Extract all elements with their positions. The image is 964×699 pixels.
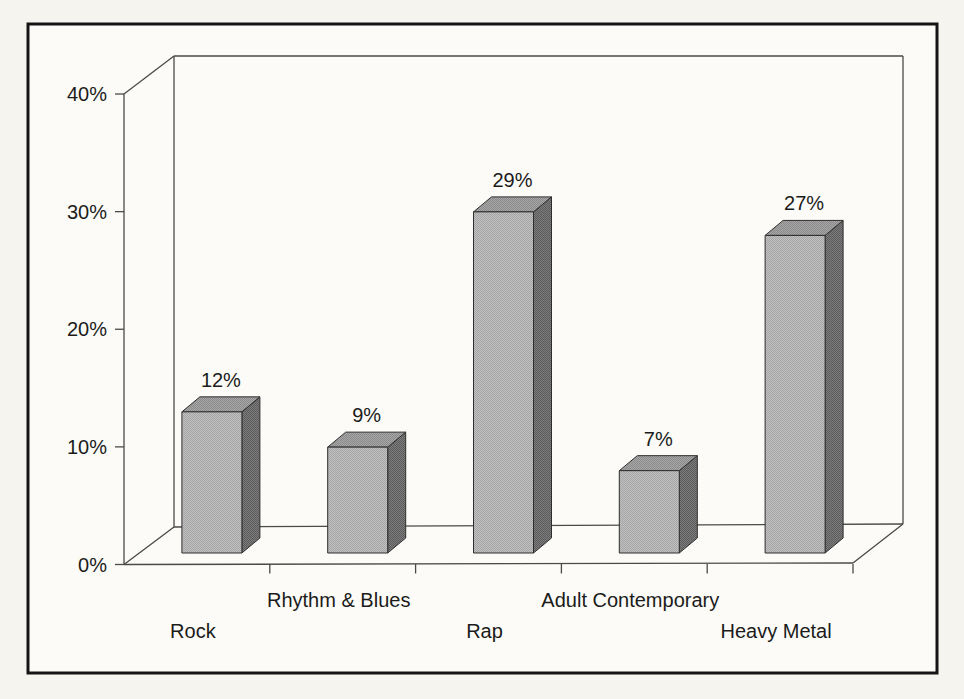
y-axis-label-40: 40% bbox=[67, 83, 107, 105]
bar-rap bbox=[474, 197, 552, 553]
category-label-rap: Rap bbox=[466, 620, 503, 642]
value-label-heavy-metal: 27% bbox=[784, 192, 824, 214]
value-label-rhythm-blues: 9% bbox=[352, 404, 381, 426]
category-label-heavy-metal: Heavy Metal bbox=[721, 620, 832, 642]
category-label-adult-contemporary: Adult Contemporary bbox=[541, 589, 719, 611]
bar-chart-3d: 12%9%29%7%27% RockRhythm & BluesRapAdult… bbox=[0, 0, 964, 699]
value-label-rap: 29% bbox=[492, 169, 532, 191]
value-label-rock: 12% bbox=[201, 369, 241, 391]
bar-front-face bbox=[328, 447, 388, 553]
scanned-page: 12%9%29%7%27% RockRhythm & BluesRapAdult… bbox=[0, 0, 964, 699]
bar-side-face bbox=[388, 432, 406, 553]
y-axis-label-0: 0% bbox=[78, 554, 107, 576]
value-label-adult-contemporary: 7% bbox=[644, 428, 673, 450]
bar-side-face bbox=[679, 456, 697, 553]
bar-rhythm-blues bbox=[328, 432, 406, 553]
y-axis-label-10: 10% bbox=[67, 436, 107, 458]
bar-side-face bbox=[242, 397, 260, 553]
bar-front-face bbox=[619, 471, 679, 553]
bar-side-face bbox=[534, 197, 552, 553]
bar-heavy-metal bbox=[765, 220, 843, 553]
bar-rock bbox=[182, 397, 260, 553]
category-label-rock: Rock bbox=[170, 620, 217, 642]
bar-front-face bbox=[474, 212, 534, 553]
category-label-rhythm-blues: Rhythm & Blues bbox=[267, 589, 410, 611]
bar-adult-contemporary bbox=[619, 456, 697, 553]
bar-front-face bbox=[182, 412, 242, 553]
y-axis-label-30: 30% bbox=[67, 201, 107, 223]
y-axis-label-20: 20% bbox=[67, 318, 107, 340]
bar-side-face bbox=[825, 220, 843, 553]
bar-front-face bbox=[765, 235, 825, 553]
